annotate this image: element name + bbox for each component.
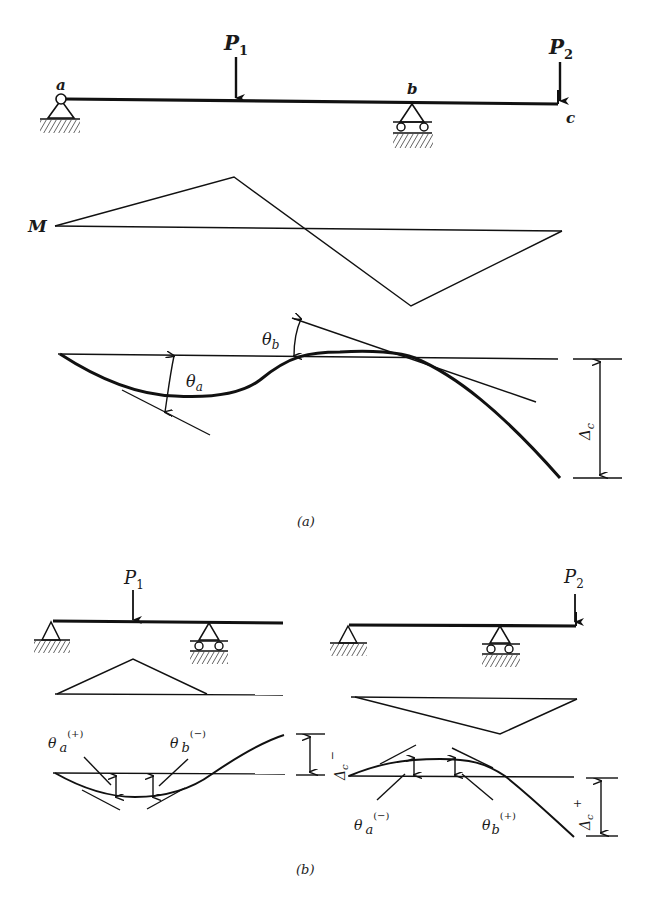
- pin-support-left: [34, 622, 70, 653]
- deflection-diagram-a: θa θb Δc: [58, 318, 622, 478]
- roller-support-left: [190, 623, 228, 664]
- label-b-right-theta-a: θa(−): [354, 810, 389, 837]
- label-b-left-theta-b: θb(−): [170, 728, 206, 755]
- label-p2: P2: [548, 35, 573, 62]
- roller-support-b: [393, 104, 433, 148]
- label-b-p2: P2: [563, 566, 584, 591]
- label-theta-b: θb: [262, 330, 279, 352]
- beam-superposition-figure: P1 P2 a b c M θa θb: [0, 0, 648, 915]
- label-theta-a: θa: [186, 372, 203, 394]
- caption-b: (b): [296, 862, 314, 877]
- label-b-left-theta-a: θa(+): [48, 728, 83, 755]
- label-b-right-delta-c: Δc+: [571, 799, 595, 831]
- roller-support-right: [482, 626, 520, 667]
- part-b-right: P2 θa(−) θb(+) Δc+: [330, 566, 618, 837]
- label-c: c: [566, 109, 575, 127]
- part-b-left: P1 θa(+) θb(−) Δc−: [34, 567, 350, 810]
- label-b: b: [407, 80, 418, 98]
- elastic-curve-a: [60, 351, 560, 478]
- label-b-left-delta-c: Δc−: [326, 751, 350, 781]
- part-a-beam: P1 P2 a b c: [40, 31, 575, 148]
- label-b-right-theta-b: θb(+): [482, 810, 516, 837]
- label-b-p1: P1: [123, 567, 144, 592]
- moment-diagram-a: M: [27, 177, 562, 306]
- pin-support-right: [330, 626, 367, 656]
- beam-a: [66, 99, 558, 104]
- caption-a: (a): [297, 514, 315, 529]
- label-delta-c: Δc: [576, 423, 597, 441]
- label-a: a: [56, 76, 66, 94]
- label-p1: P1: [223, 31, 248, 58]
- label-moment-m: M: [27, 216, 48, 236]
